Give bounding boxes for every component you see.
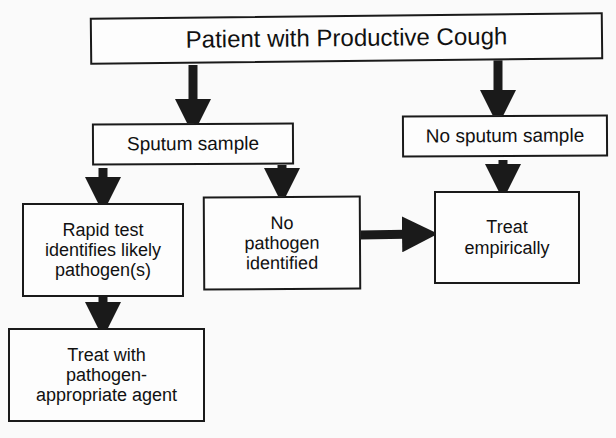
node-patient-with-productive-cough: Patient with Productive Cough — [90, 12, 603, 64]
node-no-pathogen-identified: No pathogen identified — [203, 196, 361, 291]
node-label: Treat with pathogen- appropriate agent — [36, 345, 177, 405]
arrow-no-pathogen-to-empiric — [360, 234, 420, 235]
node-label: Rapid test identifies likely pathogen(s) — [45, 220, 161, 280]
node-sputum-sample: Sputum sample — [92, 122, 294, 165]
node-label: No pathogen identified — [244, 213, 319, 274]
node-label: Treat empirically — [464, 217, 549, 257]
node-label: No sputum sample — [426, 125, 585, 147]
node-treat-with-pathogen-appropriate-agent: Treat with pathogen- appropriate agent — [8, 328, 205, 422]
node-treat-empirically: Treat empirically — [434, 191, 580, 284]
node-no-sputum-sample: No sputum sample — [402, 114, 608, 157]
node-label: Sputum sample — [127, 133, 259, 155]
node-rapid-test: Rapid test identifies likely pathogen(s) — [22, 203, 184, 297]
node-label: Patient with Productive Cough — [186, 23, 508, 53]
